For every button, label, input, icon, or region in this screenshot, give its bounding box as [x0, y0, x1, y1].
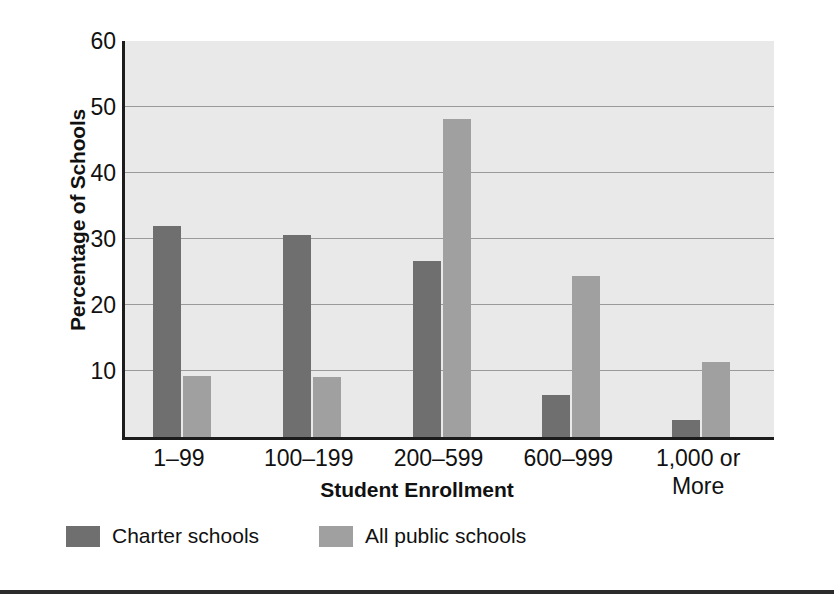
bar: [313, 377, 341, 437]
x-tick-label: 200–599: [364, 444, 514, 472]
y-tick-label: 10: [70, 360, 116, 383]
x-axis-title: Student Enrollment: [122, 478, 712, 502]
y-tick-label: 50: [70, 96, 116, 119]
legend-swatch-charter-schools: [66, 526, 100, 547]
legend-swatch-all-public-schools: [319, 526, 353, 547]
y-axis-tick-labels: 10 20 30 40 50 60: [60, 0, 116, 600]
bottom-divider: [0, 590, 834, 594]
x-tick-label: 600–999: [493, 444, 643, 472]
y-tick-label: 30: [70, 228, 116, 251]
x-tick-label-line: 100–199: [264, 445, 354, 471]
x-tick-label-line: 1–99: [153, 445, 204, 471]
y-tick-label: 60: [70, 30, 116, 53]
plot-area: [122, 41, 774, 440]
legend-label: Charter schools: [112, 524, 259, 548]
x-tick-label: 100–199: [234, 444, 384, 472]
bars-layer: [125, 41, 774, 437]
y-tick-label: 20: [70, 294, 116, 317]
legend-label: All public schools: [365, 524, 526, 548]
bar: [542, 395, 570, 437]
legend-item-all-public-schools: All public schools: [319, 524, 526, 548]
bar-group: [542, 41, 600, 437]
bar: [413, 261, 441, 437]
x-tick-label: 1–99: [104, 444, 254, 472]
bar: [443, 119, 471, 437]
bar-group: [283, 41, 341, 437]
bar: [153, 226, 181, 437]
bar: [702, 362, 730, 437]
bar: [672, 420, 700, 437]
bar-chart-figure: Percentage of Schools 10 20 30 40 50 60 …: [0, 0, 834, 600]
y-tick-label: 40: [70, 162, 116, 185]
bar: [283, 235, 311, 437]
legend-item-charter-schools: Charter schools: [66, 524, 259, 548]
x-tick-label-line: 600–999: [524, 445, 614, 471]
chart-legend: Charter schools All public schools: [66, 524, 526, 548]
x-tick-label-line: 1,000 or: [656, 445, 740, 471]
x-tick-label-line: 200–599: [394, 445, 484, 471]
bar-group: [672, 41, 730, 437]
bar: [183, 376, 211, 437]
bar-group: [153, 41, 211, 437]
bar: [572, 276, 600, 437]
bar-group: [413, 41, 471, 437]
